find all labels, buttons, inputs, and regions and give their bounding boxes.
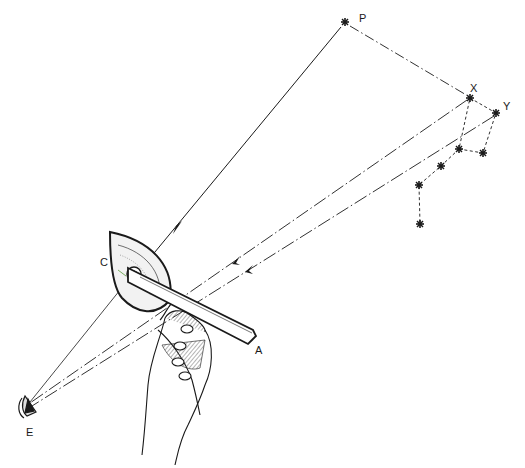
star-icon <box>415 181 423 189</box>
label-y: Y <box>503 100 511 112</box>
eye-icon <box>19 396 36 418</box>
star-icon <box>455 145 463 153</box>
star-icon <box>492 109 500 117</box>
label-c: C <box>100 256 108 268</box>
star-icon <box>479 149 487 157</box>
label-a: A <box>255 344 263 356</box>
star-icon <box>416 220 424 228</box>
pole-sight-line <box>150 27 341 258</box>
hand-illustration <box>142 300 211 465</box>
star-sighting-diagram: P X Y E C A <box>0 0 525 468</box>
star-field <box>341 18 500 228</box>
label-p: P <box>359 12 366 24</box>
x-sight-line <box>30 100 467 403</box>
c-sight-line <box>30 290 120 402</box>
arrow-icon <box>232 256 240 265</box>
star-icon <box>341 18 349 26</box>
arrow-icon <box>173 221 182 234</box>
arrow-icon <box>245 265 253 274</box>
label-e: E <box>26 426 33 438</box>
star-icon <box>437 162 445 170</box>
label-x: X <box>470 82 478 94</box>
pole-to-x-line <box>350 26 468 96</box>
star-icon <box>466 94 474 102</box>
constellation-outline <box>419 98 496 224</box>
